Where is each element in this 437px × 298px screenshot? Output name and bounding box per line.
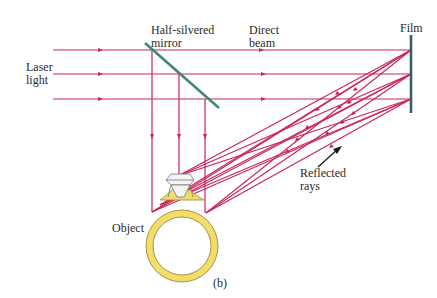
label-object: Object — [112, 222, 144, 235]
figure-caption: (b) — [213, 277, 227, 290]
label-laser-light: Laserlight — [26, 61, 53, 87]
half-silvered-mirror — [145, 43, 219, 108]
hologram-diagram: Laserlight Half-silveredmirror Directbea… — [0, 0, 437, 298]
ring-object — [146, 174, 218, 282]
label-film: Film — [400, 22, 423, 35]
laser-beams — [53, 50, 411, 99]
diagram-canvas — [0, 0, 437, 298]
ring-band-inner — [153, 217, 211, 275]
label-direct-beam: Directbeam — [249, 24, 279, 50]
label-half-silvered-mirror: Half-silveredmirror — [151, 24, 214, 50]
label-reflected-rays: Reflectedrays — [300, 167, 346, 193]
